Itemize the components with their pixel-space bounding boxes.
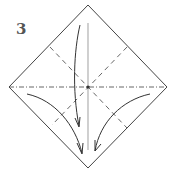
valley-fold-line-b <box>52 47 127 125</box>
center-point <box>86 85 89 88</box>
step-number: 3 <box>16 22 26 37</box>
arrow-left-down <box>27 94 82 153</box>
